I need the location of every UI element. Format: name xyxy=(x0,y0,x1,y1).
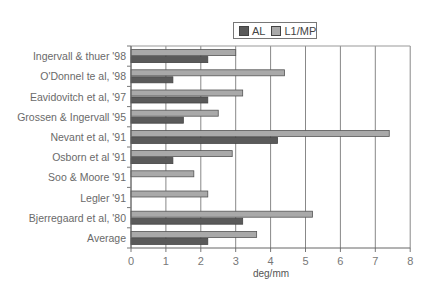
category-label: Average xyxy=(87,232,126,244)
category-label: Eavidovitch et al, '97 xyxy=(30,91,126,103)
x-tick-label: 1 xyxy=(163,255,169,267)
legend-swatch-al xyxy=(239,26,249,36)
legend-item-al: AL xyxy=(239,25,265,37)
bar-l1mp xyxy=(131,90,243,96)
bar-al xyxy=(131,97,208,103)
legend: AL L1/MP xyxy=(233,22,317,39)
legend-swatch-l1mp xyxy=(271,26,281,36)
bar-al xyxy=(131,158,173,164)
x-tick-label: 8 xyxy=(407,255,413,267)
x-tick-label: 3 xyxy=(233,255,239,267)
x-tick-label: 4 xyxy=(268,255,274,267)
legend-label-al: AL xyxy=(252,25,265,37)
x-tick-label: 7 xyxy=(372,255,378,267)
bar-al xyxy=(131,137,278,143)
bar-l1mp xyxy=(131,211,312,217)
category-label: Nevant et al, '91 xyxy=(50,131,126,143)
bar-al xyxy=(131,57,208,63)
category-labels: Ingervall & thuer '98O'Donnel te al, '98… xyxy=(17,50,126,244)
x-tick-label: 0 xyxy=(128,255,134,267)
bar-l1mp xyxy=(131,130,389,136)
bar-l1mp xyxy=(131,70,285,76)
category-label: Soo & Moore '91 xyxy=(48,171,126,183)
bar-al xyxy=(131,77,173,83)
category-label: Grossen & Ingervall '95 xyxy=(17,111,126,123)
bar-l1mp xyxy=(131,50,236,56)
category-label: Legler '91 xyxy=(80,192,126,204)
x-axis-title: deg/mm xyxy=(253,268,289,279)
x-tick-label: 6 xyxy=(337,255,343,267)
category-label: O'Donnel te al, '98 xyxy=(40,70,126,82)
legend-item-l1mp: L1/MP xyxy=(271,25,316,37)
category-label: Ingervall & thuer '98 xyxy=(33,50,126,62)
x-tick-labels: 012345678 xyxy=(128,255,413,267)
x-tick-label: 2 xyxy=(198,255,204,267)
gridlines xyxy=(131,46,410,248)
bar-l1mp xyxy=(131,191,208,197)
bars xyxy=(131,50,389,245)
bar-al xyxy=(131,238,208,244)
bar-chart: Ingervall & thuer '98O'Donnel te al, '98… xyxy=(0,0,432,296)
bar-l1mp xyxy=(131,171,194,177)
legend-label-l1mp: L1/MP xyxy=(284,25,316,37)
category-label: Bjerregaard et al, '80 xyxy=(29,212,126,224)
bar-al xyxy=(131,218,243,224)
bar-l1mp xyxy=(131,231,257,237)
category-label: Osborn et al '91 xyxy=(52,151,126,163)
bar-l1mp xyxy=(131,110,218,116)
x-tick-label: 5 xyxy=(302,255,308,267)
bar-al xyxy=(131,117,183,123)
bar-l1mp xyxy=(131,151,232,157)
